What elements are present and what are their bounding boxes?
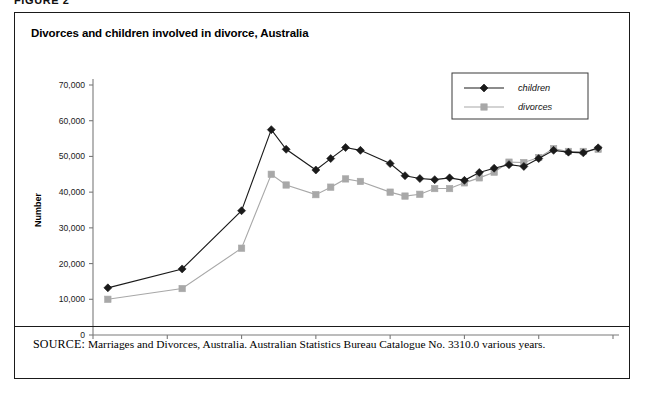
series-line-children — [108, 130, 598, 288]
series-line-divorces — [108, 149, 598, 300]
footer-divider — [15, 326, 629, 327]
source-label: SOURCE: — [33, 337, 85, 351]
data-point-divorces — [328, 184, 334, 190]
data-point-divorces — [387, 189, 393, 195]
data-point-divorces — [179, 285, 185, 291]
y-tick-label: 50,000 — [59, 151, 86, 161]
y-axis-title: Number — [33, 193, 43, 228]
y-tick-label: 60,000 — [59, 116, 86, 126]
data-point-divorces — [268, 171, 274, 177]
figure-number-label: FIGURE 2 — [14, 0, 70, 6]
y-tick-label: 40,000 — [59, 187, 86, 197]
chart-plot-area: 010,00020,00030,00040,00050,00060,00070,… — [15, 49, 628, 339]
data-point-divorces — [417, 191, 423, 197]
data-point-children — [104, 284, 112, 292]
series-divorces — [105, 145, 602, 302]
legend-label-divorces: divorces — [518, 102, 553, 112]
data-point-children — [356, 146, 364, 154]
data-point-divorces — [238, 245, 244, 251]
data-point-divorces — [357, 178, 363, 184]
data-point-divorces — [432, 185, 438, 191]
series-children — [104, 126, 602, 292]
y-tick-label: 20,000 — [59, 259, 86, 269]
figure-title: Divorces and children involved in divorc… — [31, 27, 309, 39]
legend-label-children: children — [518, 83, 550, 93]
legend-marker-divorces — [481, 104, 487, 110]
data-point-children — [431, 176, 439, 184]
data-point-children — [416, 175, 424, 183]
data-point-children — [446, 174, 454, 182]
source-note: SOURCE: Marriages and Divorces, Australi… — [33, 337, 619, 353]
data-point-divorces — [283, 182, 289, 188]
chart-legend: childrendivorces — [452, 73, 588, 119]
y-tick-label: 10,000 — [59, 294, 86, 304]
data-point-divorces — [446, 185, 452, 191]
data-point-divorces — [402, 193, 408, 199]
y-axis-title-group: Number — [33, 193, 43, 228]
figure-container: Divorces and children involved in divorc… — [14, 12, 630, 379]
data-point-divorces — [105, 296, 111, 302]
line-chart-svg: 010,00020,00030,00040,00050,00060,00070,… — [15, 49, 628, 339]
data-point-divorces — [342, 176, 348, 182]
data-point-children — [342, 144, 350, 152]
data-point-divorces — [313, 191, 319, 197]
y-tick-label: 70,000 — [59, 80, 86, 90]
y-tick-label: 30,000 — [59, 223, 86, 233]
source-text: Marriages and Divorces, Australia. Austr… — [88, 338, 545, 350]
